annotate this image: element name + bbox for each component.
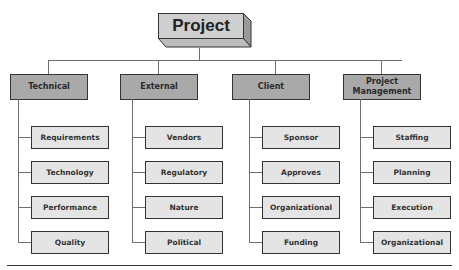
- tick: [132, 137, 145, 138]
- tick: [18, 137, 31, 138]
- spine-technical: [18, 99, 19, 243]
- tick: [249, 172, 262, 173]
- tick: [360, 172, 373, 173]
- category-label: Client: [258, 82, 284, 92]
- child-requirements: Requirements: [31, 126, 109, 149]
- category-label: Project Management: [350, 77, 414, 97]
- category-label: External: [140, 82, 178, 92]
- child-regulatory: Regulatory: [145, 161, 223, 184]
- project-root-label: Project: [172, 16, 230, 36]
- tick: [249, 137, 262, 138]
- child-vendors: Vendors: [145, 126, 223, 149]
- project-root-box: Project: [158, 13, 244, 39]
- child-technology: Technology: [31, 161, 109, 184]
- child-label: Staffing: [395, 133, 428, 142]
- category-label: Technical: [28, 82, 70, 92]
- child-approves: Approves: [262, 161, 340, 184]
- category-bus-connector: [48, 60, 402, 61]
- child-label: Vendors: [167, 133, 202, 142]
- drop-client: [275, 60, 276, 74]
- tick: [132, 242, 145, 243]
- tick: [18, 242, 31, 243]
- tick: [249, 207, 262, 208]
- child-funding: Funding: [262, 231, 340, 254]
- child-execution: Execution: [373, 196, 451, 219]
- child-label: Execution: [391, 203, 432, 212]
- child-label: Requirements: [40, 133, 99, 142]
- child-political: Political: [145, 231, 223, 254]
- category-external: External: [120, 74, 198, 100]
- child-label: Sponsor: [284, 133, 319, 142]
- child-staffing: Staffing: [373, 126, 451, 149]
- child-label: Technology: [46, 168, 93, 177]
- child-label: Political: [167, 238, 201, 247]
- child-label: Planning: [393, 168, 430, 177]
- child-label: Regulatory: [161, 168, 208, 177]
- child-performance: Performance: [31, 196, 109, 219]
- tick: [360, 137, 373, 138]
- child-label: Nature: [169, 203, 198, 212]
- child-nature: Nature: [145, 196, 223, 219]
- child-quality: Quality: [31, 231, 109, 254]
- bottom-divider: [7, 265, 452, 266]
- spine-project-management: [360, 99, 361, 243]
- child-sponsor: Sponsor: [262, 126, 340, 149]
- child-label: Performance: [43, 203, 97, 212]
- tick: [249, 242, 262, 243]
- drop-technical: [48, 60, 49, 74]
- tick: [132, 172, 145, 173]
- child-planning: Planning: [373, 161, 451, 184]
- child-label: Approves: [281, 168, 321, 177]
- category-client: Client: [232, 74, 310, 100]
- child-label: Funding: [284, 238, 318, 247]
- child-label: Organizational: [270, 203, 332, 212]
- drop-project-management: [381, 60, 382, 74]
- tick: [360, 207, 373, 208]
- spine-external: [132, 99, 133, 243]
- spine-client: [249, 99, 250, 243]
- tick: [132, 207, 145, 208]
- tick: [18, 207, 31, 208]
- tick: [18, 172, 31, 173]
- child-organizational-client: Organizational: [262, 196, 340, 219]
- child-label: Organizational: [381, 238, 443, 247]
- child-organizational-pm: Organizational: [373, 231, 451, 254]
- child-label: Quality: [55, 238, 85, 247]
- drop-external: [158, 60, 159, 74]
- category-technical: Technical: [10, 74, 88, 100]
- tick: [360, 242, 373, 243]
- category-project-management: Project Management: [343, 74, 421, 100]
